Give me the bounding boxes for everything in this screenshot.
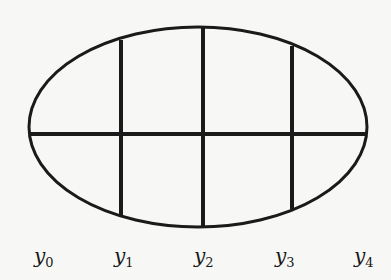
label-y3: y3: [275, 246, 295, 269]
label-y1: y1: [114, 246, 134, 269]
label-y4: y4: [354, 246, 374, 269]
ellipse-partition-diagram: y0 y1 y2 y3 y4: [0, 0, 391, 280]
ellipse-outline: [29, 27, 367, 227]
vertical-chords: [121, 28, 292, 227]
label-y0: y0: [34, 246, 54, 269]
diagram-canvas: [0, 0, 391, 280]
label-y2: y2: [194, 246, 214, 269]
